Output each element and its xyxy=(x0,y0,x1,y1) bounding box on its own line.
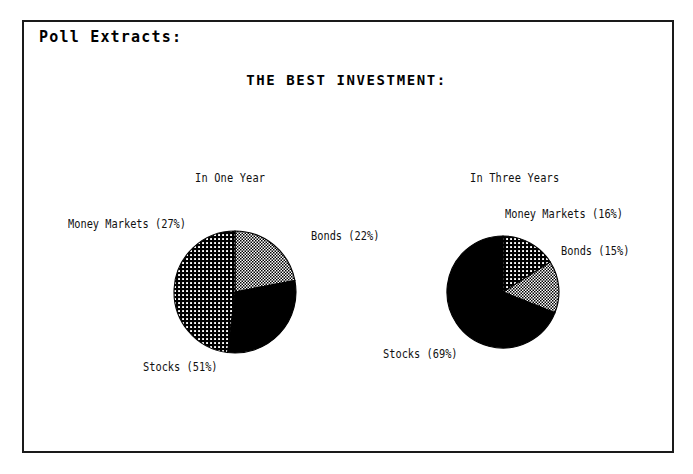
screenshot-root: Poll Extracts: THE BEST INVESTMENT: In O… xyxy=(0,0,693,474)
pie-chart-three-years xyxy=(0,0,693,474)
